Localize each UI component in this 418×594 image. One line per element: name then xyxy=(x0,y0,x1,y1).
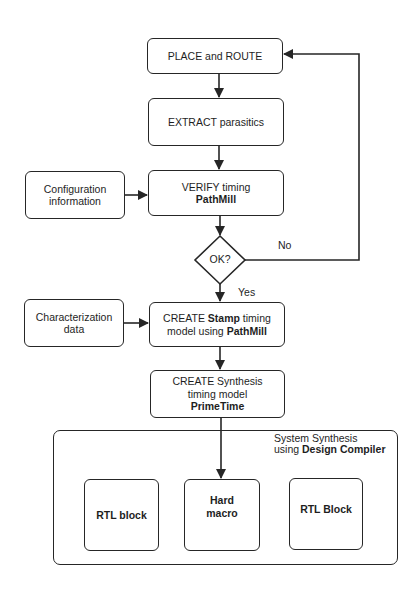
system-pre2: using xyxy=(274,443,302,455)
stamp-pre: CREATE xyxy=(163,312,208,324)
extract-label: EXTRACT parasitics xyxy=(168,116,264,129)
verify-tool: PathMill xyxy=(196,193,236,206)
place-route-label: PLACE and ROUTE xyxy=(168,50,263,63)
system-tool: Design Compiler xyxy=(302,443,385,455)
char-line1: Characterization xyxy=(36,311,112,324)
verify-label: VERIFY timing xyxy=(182,181,251,194)
stamp-line1: CREATE Stamp timing xyxy=(163,312,271,325)
no-label: No xyxy=(278,239,291,251)
system-synthesis-caption: System Synthesis using Design Compiler xyxy=(274,433,385,455)
system-line2: using Design Compiler xyxy=(274,444,385,455)
rtl-block-right-label: RTL Block xyxy=(300,503,352,516)
hard-macro-box: Hard macro xyxy=(184,479,260,551)
verify-timing-box: VERIFY timing PathMill xyxy=(148,170,284,216)
rtl-block-left-label: RTL block xyxy=(96,509,147,522)
synth-line2: timing model xyxy=(188,388,248,401)
yes-label: Yes xyxy=(238,286,255,298)
arrow-no-loop xyxy=(245,54,359,260)
config-line2: information xyxy=(49,195,101,208)
synth-line1: CREATE Synthesis xyxy=(172,375,262,388)
rtl-block-left: RTL block xyxy=(84,479,159,551)
hard-macro-line1: Hard xyxy=(210,494,234,507)
create-synthesis-box: CREATE Synthesis timing model PrimeTime xyxy=(150,370,285,418)
place-route-box: PLACE and ROUTE xyxy=(147,38,283,74)
stamp-bold: Stamp xyxy=(208,312,240,324)
configuration-box: Configuration information xyxy=(25,171,125,219)
stamp-line2: model using PathMill xyxy=(167,325,267,338)
stamp-pre2: model using xyxy=(167,325,227,337)
characterization-box: Characterization data xyxy=(24,299,124,347)
rtl-block-right: RTL Block xyxy=(289,478,363,550)
stamp-tool: PathMill xyxy=(227,325,267,337)
char-line2: data xyxy=(64,323,84,336)
stamp-post: timing xyxy=(240,312,271,324)
decision-label: OK? xyxy=(200,253,240,265)
hard-macro-line2: macro xyxy=(206,507,238,520)
extract-parasitics-box: EXTRACT parasitics xyxy=(148,98,284,146)
create-stamp-box: CREATE Stamp timing model using PathMill xyxy=(149,302,285,347)
synth-tool: PrimeTime xyxy=(191,400,245,413)
config-line1: Configuration xyxy=(44,183,106,196)
